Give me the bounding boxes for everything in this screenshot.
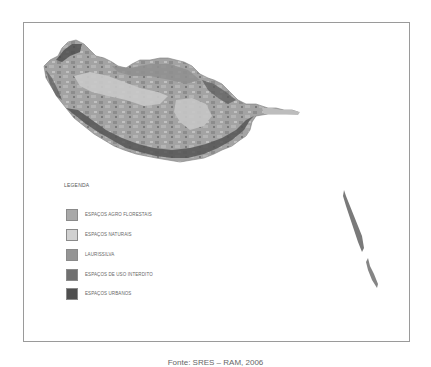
legend-swatch — [66, 288, 78, 300]
legend-item-agro-florestais: ESPAÇOS AGRO FLORESTAIS — [66, 209, 266, 221]
source-caption: Fonte: SRES – RAM, 2006 — [0, 358, 431, 367]
legend-item-laurissilva: LAURISSILVA — [66, 249, 266, 261]
desertas-islands — [343, 190, 378, 288]
legend-label: ESPAÇOS NATURAIS — [85, 232, 132, 237]
legend-item-naturais: ESPAÇOS NATURAIS — [66, 229, 266, 241]
legend-label: LAURISSILVA — [85, 252, 114, 257]
legend-title: LEGENDA — [64, 182, 89, 188]
legend-swatch — [66, 269, 78, 281]
legend-label: ESPAÇOS AGRO FLORESTAIS — [85, 212, 152, 217]
legend-label: ESPAÇOS URBANOS — [85, 291, 131, 296]
madeira-island — [44, 40, 300, 162]
legend-swatch — [66, 229, 78, 241]
legend-label: ESPAÇOS DE USO INTERDITO — [85, 272, 153, 277]
legend-swatch — [66, 249, 78, 261]
legend-item-uso-interdito: ESPAÇOS DE USO INTERDITO — [66, 269, 266, 281]
legend-swatch — [66, 209, 78, 221]
legend-item-urbanos: ESPAÇOS URBANOS — [66, 288, 266, 300]
